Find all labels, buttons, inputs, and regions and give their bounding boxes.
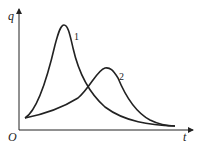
x-axis-label: t <box>183 131 186 143</box>
curve-2-label: 2 <box>119 72 124 82</box>
curve-1-label: 1 <box>74 32 79 42</box>
origin-label: O <box>8 131 17 143</box>
y-axis-label: q <box>8 10 14 22</box>
curve-1 <box>25 25 175 126</box>
curve-2 <box>25 68 175 126</box>
chart-plot <box>0 0 201 152</box>
chart: q O t 1 2 <box>0 0 201 152</box>
